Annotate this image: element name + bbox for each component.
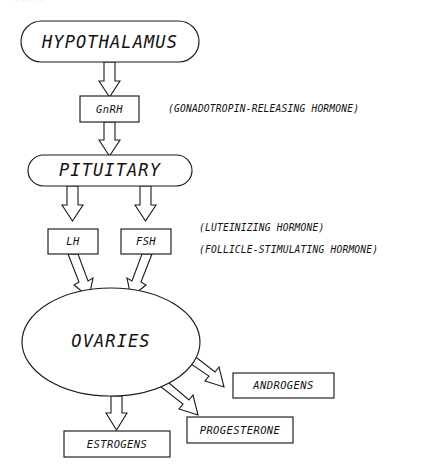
- diagram-canvas: HYPOTHALAMUS GnRH (GONADOTROPIN-RELEASIN…: [0, 0, 427, 473]
- node-fsh-label: FSH: [136, 235, 156, 247]
- node-androgens[interactable]: ANDROGENS: [233, 373, 334, 398]
- node-progesterone-label: PROGESTERONE: [200, 424, 281, 436]
- arrow-pituitary-to-fsh: [135, 186, 156, 221]
- hpo-axis-diagram: FIGURE: [0, 0, 427, 473]
- node-gnrh-label: GnRH: [96, 103, 123, 115]
- arrow-gnrh-to-pituitary: [99, 122, 120, 156]
- annotation-lh-expansion: (LUTEINIZING HORMONE): [199, 222, 325, 233]
- node-lh[interactable]: LH: [48, 229, 98, 254]
- node-pituitary-label: PITUITARY: [59, 160, 162, 180]
- node-estrogens-label: ESTROGENS: [87, 438, 148, 450]
- node-hypothalamus[interactable]: HYPOTHALAMUS: [21, 21, 199, 62]
- node-pituitary[interactable]: PITUITARY: [28, 155, 192, 186]
- node-ovaries[interactable]: OVARIES: [22, 288, 200, 396]
- node-ovaries-label: OVARIES: [71, 331, 150, 351]
- node-fsh[interactable]: FSH: [121, 229, 171, 254]
- node-hypothalamus-label: HYPOTHALAMUS: [41, 32, 178, 52]
- annotation-gnrh-expansion: (GONADOTROPIN-RELEASING HORMONE): [168, 103, 359, 114]
- node-estrogens[interactable]: ESTROGENS: [64, 431, 170, 457]
- arrow-pituitary-to-lh: [62, 186, 83, 221]
- node-lh-label: LH: [66, 235, 80, 247]
- node-gnrh[interactable]: GnRH: [80, 96, 139, 122]
- node-progesterone[interactable]: PROGESTERONE: [187, 417, 293, 443]
- arrow-ovaries-to-estrogens: [106, 396, 127, 430]
- arrow-hypothalamus-to-gnrh: [99, 62, 120, 97]
- node-androgens-label: ANDROGENS: [252, 379, 314, 391]
- annotation-fsh-expansion: (FOLLICLE-STIMULATING HORMONE): [199, 244, 378, 255]
